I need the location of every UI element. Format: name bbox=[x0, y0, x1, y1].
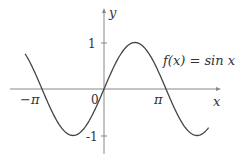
function-label: f(x) = sin x bbox=[162, 53, 236, 68]
sine-chart: y x 1 -1 0 π −π f(x) = sin x bbox=[0, 0, 239, 162]
x-axis-label: x bbox=[213, 94, 221, 109]
y-tick-label-1: 1 bbox=[88, 37, 96, 51]
y-axis-label: y bbox=[108, 5, 117, 20]
y-axis-arrow-icon bbox=[102, 8, 106, 13]
origin-label: 0 bbox=[91, 93, 99, 107]
y-tick-label-neg1: -1 bbox=[86, 130, 98, 144]
x-tick-label-pi: π bbox=[153, 92, 163, 107]
x-tick-label-neg-pi: −π bbox=[20, 92, 40, 107]
x-axis-arrow-icon bbox=[216, 87, 221, 91]
